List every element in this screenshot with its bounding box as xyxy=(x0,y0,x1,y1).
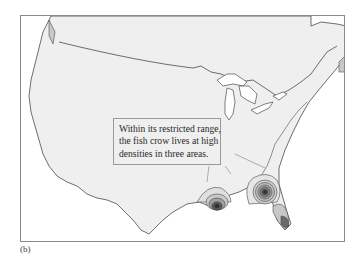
panel-label: (b) xyxy=(20,244,31,254)
density-area-georgia xyxy=(247,174,280,204)
callout-line-2: the fish crow lives at high xyxy=(119,135,216,147)
callout-line-1: Within its restricted range, xyxy=(119,123,216,135)
callout-line-3: densities in three areas. xyxy=(119,148,216,160)
callout-box: Within its restricted range, the fish cr… xyxy=(113,118,221,165)
